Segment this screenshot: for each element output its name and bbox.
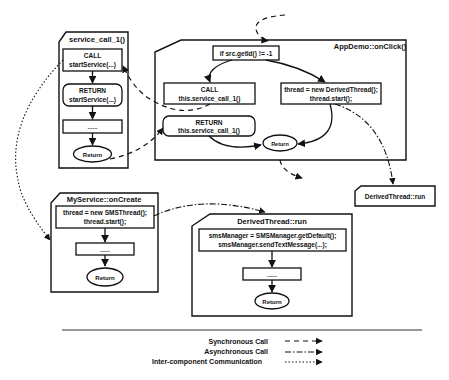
node-label: startService(...) xyxy=(69,61,116,69)
node-label: RETURN xyxy=(79,87,106,94)
node-label: ...... xyxy=(87,124,97,130)
return-node: Return xyxy=(74,146,112,162)
node-label: Return xyxy=(95,275,115,281)
frame-title: service_call_1() xyxy=(69,35,125,44)
node-label: Return xyxy=(83,152,103,158)
node-label: smsManager = SMSManager.getDefault(); xyxy=(209,232,337,240)
legend-item-sync: Synchronous Call xyxy=(208,338,322,346)
call-service-call-node: CALL this.service_call_1() xyxy=(164,83,255,104)
call-start-service-node: CALL startService(...) xyxy=(63,49,122,71)
return-node: Return xyxy=(87,268,123,286)
frame-title: DerivedThread::run xyxy=(365,193,425,200)
return-node: Return xyxy=(255,293,289,309)
node-label: thread = new DerivedThread(); xyxy=(284,86,378,94)
node-label: Return xyxy=(271,141,289,147)
legend-label: Inter-component Communication xyxy=(152,358,262,366)
legend-label: Synchronous Call xyxy=(208,338,268,346)
frame-derived-thread-stub: DerivedThread::run xyxy=(355,186,435,206)
node-label: ...... xyxy=(100,247,110,253)
return-service-call-node: RETURN this.service_call_1() xyxy=(163,116,255,136)
frame-title: AppDemo::onClick() xyxy=(334,42,407,51)
legend-label: Asynchronous Call xyxy=(204,348,268,356)
legend-item-icc: Inter-component Communication xyxy=(152,358,322,366)
node-label: smsManager.sendTextMessage(...); xyxy=(218,241,327,249)
connector-entry-onclick xyxy=(256,15,285,41)
node-label: this.service_call_1() xyxy=(178,127,240,135)
return-start-service-node: RETURN startService(...) xyxy=(63,84,122,106)
node-label: RETURN xyxy=(195,119,222,126)
return-node: Return xyxy=(263,135,297,151)
frame-service-call: service_call_1() CALL startService(...) … xyxy=(59,32,128,168)
node-label: thread = new SMSThread(); xyxy=(63,209,147,217)
ellipsis-node: ...... xyxy=(243,268,301,280)
node-label: ...... xyxy=(267,272,277,278)
legend: Synchronous Call Asynchronous Call Inter… xyxy=(152,338,322,366)
node-label: startService(...) xyxy=(69,96,116,104)
condition-node: if src.getId() != -1 xyxy=(213,46,279,60)
frame-derived-run: DerivedThread::run smsManager = SMSManag… xyxy=(192,214,352,316)
sms-manager-node: smsManager = SMSManager.getDefault(); sm… xyxy=(199,229,346,251)
node-label: Return xyxy=(262,299,282,305)
node-label: CALL xyxy=(84,52,101,59)
frame-title: DerivedThread::run xyxy=(237,217,307,226)
frame-title: MyService::onCreate xyxy=(67,195,142,204)
node-label: thread.start(); xyxy=(84,218,126,226)
legend-item-async: Asynchronous Call xyxy=(204,348,322,356)
flow-diagram: service_call_1() CALL startService(...) … xyxy=(0,0,449,380)
new-derived-thread-node: thread = new DerivedThread(); thread.sta… xyxy=(281,83,381,104)
node-label: CALL xyxy=(201,86,218,93)
node-label: if src.getId() != -1 xyxy=(220,50,273,58)
ellipsis-node: ...... xyxy=(76,243,134,255)
ellipsis-node: ...... xyxy=(63,120,122,133)
new-sms-thread-node: thread = new SMSThread(); thread.start()… xyxy=(56,206,154,228)
frame-oncreate: MyService::onCreate thread = new SMSThre… xyxy=(51,193,158,292)
frame-onclick: AppDemo::onClick() if src.getId() != -1 … xyxy=(155,40,407,160)
node-label: this.service_call_1() xyxy=(179,95,241,103)
node-label: thread.start(); xyxy=(310,95,352,103)
connector-exit-onclick xyxy=(280,160,302,178)
